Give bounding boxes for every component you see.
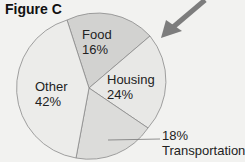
label-transportation: 18% Transportation — [162, 128, 245, 158]
transportation-pct: 18% — [162, 128, 245, 143]
other-name: Other — [35, 79, 68, 94]
housing-pct: 24% — [107, 87, 155, 102]
housing-name: Housing — [107, 72, 155, 87]
other-pct: 42% — [35, 94, 68, 109]
label-housing: Housing 24% — [107, 72, 155, 102]
transportation-name: Transportation — [162, 143, 245, 158]
food-pct: 16% — [82, 42, 112, 57]
label-other: Other 42% — [35, 79, 68, 109]
arrow-icon — [161, 0, 205, 38]
label-food: Food 16% — [82, 27, 112, 57]
food-name: Food — [82, 27, 112, 42]
